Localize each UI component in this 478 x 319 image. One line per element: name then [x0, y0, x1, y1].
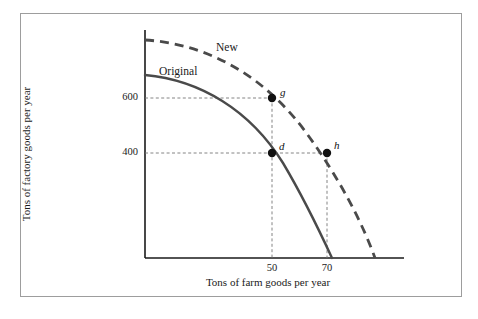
data-point-d[interactable] — [268, 149, 276, 157]
x-axis-title: Tons of farm goods per year — [178, 276, 358, 288]
y-tick-label-600: 600 — [104, 91, 138, 102]
curve-label-original: Original — [159, 65, 197, 77]
ppf-chart-svg — [0, 0, 478, 319]
curve-label-new: New — [216, 41, 238, 53]
data-point-g[interactable] — [268, 94, 276, 102]
data-point-label-d: d — [279, 140, 285, 152]
y-axis-title: Tons of factory goods per year — [20, 74, 32, 234]
x-tick-label-70: 70 — [313, 262, 341, 273]
data-point-h[interactable] — [323, 149, 331, 157]
data-point-label-h: h — [334, 139, 340, 151]
curve-original — [145, 75, 332, 258]
x-tick-label-50: 50 — [258, 262, 286, 273]
y-tick-label-400: 400 — [104, 146, 138, 157]
data-point-label-g: g — [280, 86, 286, 98]
